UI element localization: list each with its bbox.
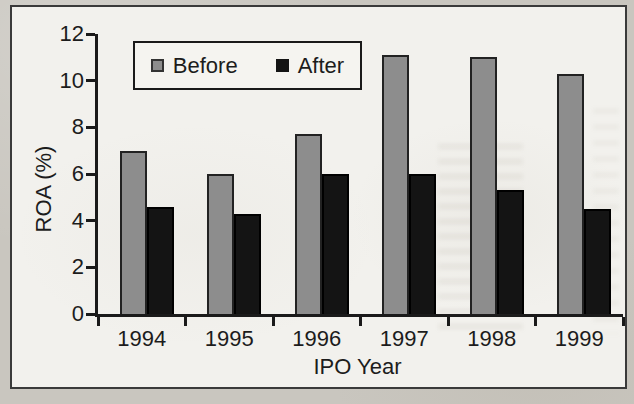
legend-item-before: Before [151,53,238,79]
x-tick-label: 1994 [98,326,186,352]
x-tick-label: 1995 [186,326,274,352]
y-tick-label: 0 [40,301,84,327]
bar-after-1996 [322,174,349,314]
legend-label-after: After [298,53,344,79]
y-axis-tick [86,79,95,82]
chart-figure: ROA (%) Before After 0246810121994199519… [10,5,627,389]
bar-after-1995 [234,214,261,314]
x-axis-tick [622,317,625,326]
y-tick-label: 6 [40,161,84,187]
x-axis-tick [447,317,450,326]
bar-after-1997 [409,174,436,314]
after-swatch-icon [276,59,289,72]
y-tick-label: 2 [40,254,84,280]
legend-item-after: After [276,53,344,79]
x-tick-label: 1997 [361,326,449,352]
x-axis-tick [184,317,187,326]
x-axis-tick [534,317,537,326]
y-tick-label: 8 [40,114,84,140]
legend: Before After [133,41,362,90]
bar-after-1998 [497,190,524,314]
bar-before-1994 [120,151,147,314]
bar-before-1996 [295,134,322,314]
y-axis-tick [86,33,95,36]
y-tick-label: 12 [40,21,84,47]
y-tick-label: 10 [40,68,84,94]
bar-before-1997 [382,55,409,314]
y-axis-tick [86,219,95,222]
x-tick-label: 1999 [536,326,624,352]
x-tick-label: 1998 [448,326,536,352]
plot-area: Before After 024681012199419951996199719… [95,34,623,317]
y-axis-tick [86,266,95,269]
y-tick-label: 4 [40,208,84,234]
bar-before-1995 [207,174,234,314]
y-axis-tick [86,173,95,176]
x-axis-tick [272,317,275,326]
x-tick-label: 1996 [273,326,361,352]
before-swatch-icon [151,59,164,72]
bar-after-1999 [584,209,611,314]
bar-after-1994 [147,207,174,314]
x-axis-tick [97,317,100,326]
bar-before-1998 [470,57,497,314]
y-axis-tick [86,313,95,316]
legend-label-before: Before [173,53,238,79]
bar-before-1999 [557,74,584,314]
x-axis-title: IPO Year [95,354,620,380]
y-axis-tick [86,126,95,129]
x-axis-tick [359,317,362,326]
